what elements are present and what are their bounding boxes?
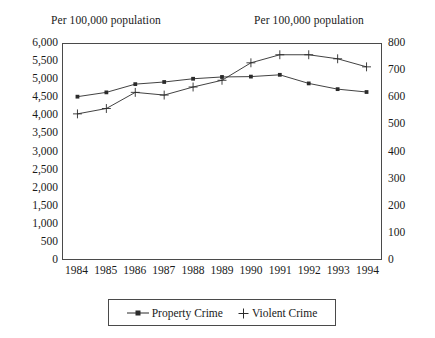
x-axis-tick-labels: 1984198519861987198819891990199119921993… xyxy=(62,264,382,280)
x-tick-1987: 1987 xyxy=(152,264,175,277)
data-point-marker xyxy=(246,58,255,67)
right-tick-300: 300 xyxy=(388,173,405,185)
data-point-marker xyxy=(133,82,137,86)
square-line-marker-icon xyxy=(127,308,149,318)
plot-area xyxy=(62,43,382,260)
right-tick-400: 400 xyxy=(388,146,405,158)
data-point-marker xyxy=(189,83,198,92)
left-tick-0: 0 xyxy=(52,254,58,266)
left-tick-500: 500 xyxy=(41,236,58,248)
left-axis-title: Per 100,000 population xyxy=(51,14,161,26)
x-tick-1985: 1985 xyxy=(94,264,117,277)
legend-item-violent-crime: Violent Crime xyxy=(238,307,317,319)
data-point-marker xyxy=(102,104,111,113)
data-point-marker xyxy=(333,54,342,63)
data-point-marker xyxy=(191,77,195,81)
left-tick-2500: 2,500 xyxy=(32,164,58,176)
right-tick-500: 500 xyxy=(388,119,405,131)
x-tick-1991: 1991 xyxy=(269,264,292,277)
right-tick-800: 800 xyxy=(388,37,405,49)
left-tick-4500: 4,500 xyxy=(32,92,58,104)
data-point-marker xyxy=(336,87,340,91)
x-tick-1993: 1993 xyxy=(327,264,350,277)
x-tick-1989: 1989 xyxy=(211,264,234,277)
x-tick-1984: 1984 xyxy=(65,264,88,277)
data-point-marker xyxy=(307,82,311,86)
data-point-marker xyxy=(275,50,284,59)
data-point-marker xyxy=(249,75,253,79)
right-tick-200: 200 xyxy=(388,200,405,212)
data-point-marker xyxy=(104,90,108,94)
left-tick-3500: 3,500 xyxy=(32,128,58,140)
right-tick-0: 0 xyxy=(388,254,394,266)
right-tick-600: 600 xyxy=(388,92,405,104)
left-tick-4000: 4,000 xyxy=(32,110,58,122)
left-tick-3000: 3,000 xyxy=(32,146,58,158)
data-point-marker xyxy=(362,62,371,71)
left-tick-5000: 5,000 xyxy=(32,73,58,85)
plot-lines xyxy=(63,44,381,259)
right-axis-tick-labels: 0100200300400500600700800 xyxy=(388,0,434,338)
x-tick-1986: 1986 xyxy=(123,264,146,277)
left-tick-2000: 2,000 xyxy=(32,182,58,194)
data-point-marker xyxy=(76,95,80,99)
data-point-marker xyxy=(304,50,313,59)
data-point-marker xyxy=(131,88,140,97)
x-tick-1988: 1988 xyxy=(181,264,204,277)
data-point-marker xyxy=(73,109,82,118)
data-point-marker xyxy=(162,80,166,84)
series-violent-crime xyxy=(73,50,371,118)
data-point-marker xyxy=(278,73,282,77)
crime-rate-line-chart: Per 100,000 population Per 100,000 popul… xyxy=(0,0,435,338)
x-tick-1994: 1994 xyxy=(356,264,379,277)
data-point-marker xyxy=(160,91,169,100)
left-tick-1000: 1,000 xyxy=(32,218,58,230)
left-tick-6000: 6,000 xyxy=(32,37,58,49)
left-axis-tick-labels: 05001,0001,5002,0002,5003,0003,5004,0004… xyxy=(0,0,58,338)
legend-label-violent-crime: Violent Crime xyxy=(252,307,317,319)
x-tick-1990: 1990 xyxy=(240,264,263,277)
right-tick-100: 100 xyxy=(388,227,405,239)
plus-marker-icon xyxy=(238,308,249,318)
left-tick-1500: 1,500 xyxy=(32,200,58,212)
chart-legend: Property Crime Violent Crime xyxy=(108,299,336,326)
left-tick-5500: 5,500 xyxy=(32,55,58,67)
legend-label-property-crime: Property Crime xyxy=(152,307,223,319)
data-point-marker xyxy=(365,90,369,94)
right-axis-title: Per 100,000 population xyxy=(254,14,364,26)
x-tick-1992: 1992 xyxy=(298,264,321,277)
right-tick-700: 700 xyxy=(388,64,405,76)
legend-item-property-crime: Property Crime xyxy=(127,307,223,319)
